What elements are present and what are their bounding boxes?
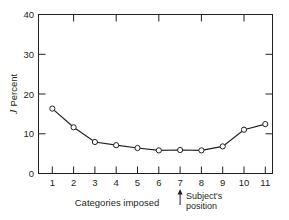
x-tick-label-7: 7 [177, 177, 182, 188]
data-point-8 [199, 148, 204, 153]
data-point-6 [156, 148, 161, 153]
x-tick-label-2: 2 [71, 177, 76, 188]
x-axis-ticks-top [74, 15, 244, 22]
data-point-1 [50, 106, 55, 111]
data-point-10 [241, 127, 246, 132]
line-chart: 0 10 20 30 40 JPercent [0, 0, 289, 220]
y-axis-title-text: JPercent [8, 73, 19, 114]
x-tick-label-1: 1 [50, 177, 55, 188]
data-point-11 [263, 122, 268, 127]
y-axis-title-symbol: J [8, 108, 19, 114]
annotation-line-2: position [186, 201, 217, 211]
x-axis-ticks [52, 167, 265, 174]
x-tick-label-3: 3 [92, 177, 97, 188]
y-tick-label-20: 20 [23, 89, 34, 100]
data-point-3 [92, 139, 97, 144]
data-point-2 [71, 125, 76, 130]
x-tick-label-5: 5 [135, 177, 140, 188]
subject-position-annotation: Subject's position [178, 189, 223, 211]
y-tick-label-0: 0 [29, 168, 34, 179]
x-tick-label-4: 4 [114, 177, 119, 188]
y-axis-title: JPercent [8, 73, 19, 114]
y-tick-label-30: 30 [23, 49, 34, 60]
x-tick-label-10: 10 [239, 177, 250, 188]
y-axis-title-word: Percent [8, 73, 19, 106]
x-tick-label-8: 8 [199, 177, 204, 188]
y-axis-tick-labels: 0 10 20 30 40 [23, 9, 34, 179]
data-point-5 [135, 145, 140, 150]
x-tick-label-6: 6 [156, 177, 161, 188]
data-point-9 [220, 144, 225, 149]
data-point-4 [114, 143, 119, 148]
data-point-7 [178, 147, 183, 152]
data-markers [50, 106, 268, 153]
data-line-series-1 [52, 109, 265, 151]
x-axis-tick-labels: 1 2 3 4 5 6 7 8 9 10 11 [50, 177, 271, 188]
annotation-line-1: Subject's [186, 191, 223, 201]
y-axis-ticks [39, 15, 46, 174]
x-tick-label-11: 11 [260, 177, 270, 188]
chart-figure: 0 10 20 30 40 JPercent [0, 0, 289, 220]
subject-position-arrowhead-icon [178, 189, 183, 195]
y-tick-label-40: 40 [23, 9, 34, 20]
x-tick-label-9: 9 [220, 177, 225, 188]
y-tick-label-10: 10 [23, 128, 34, 139]
x-axis-title: Categories imposed [75, 197, 160, 208]
